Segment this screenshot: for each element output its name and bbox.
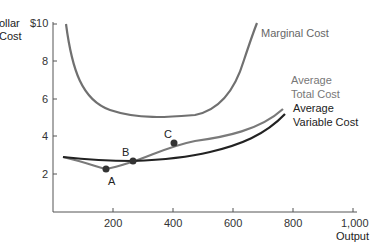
avc-label-line2: Variable Cost [293,116,358,129]
x-tick-600: 600 [224,217,242,229]
y-tick-10: $10 [30,17,48,29]
y-ticks [53,24,57,174]
x-tick-1000: 1,000 [341,217,369,229]
point-a-marker [103,166,110,173]
y-axis-label-line1: ollar [0,17,20,30]
point-b-marker [130,158,137,165]
x-tick-400: 400 [164,217,182,229]
point-b-label: B [122,146,129,159]
y-tick-6: 6 [42,93,48,105]
avc-label-line1: Average [293,102,334,115]
point-a-label: A [108,175,115,188]
y-tick-4: 4 [42,130,48,142]
y-tick-8: 8 [42,55,48,67]
marginal-cost-label: Marginal Cost [261,27,329,40]
x-ticks [113,208,353,212]
atc-label-line2: Total Cost [291,88,340,101]
y-axis-label-line2: Cost [0,30,22,43]
point-c-label: C [164,128,172,141]
x-axis-label: Output [336,230,369,243]
average-variable-cost-curve [63,114,285,161]
atc-label-line1: Average [291,74,332,87]
x-tick-200: 200 [104,217,122,229]
y-tick-2: 2 [42,168,48,180]
marginal-cost-curve [66,23,257,117]
x-tick-800: 800 [284,217,302,229]
